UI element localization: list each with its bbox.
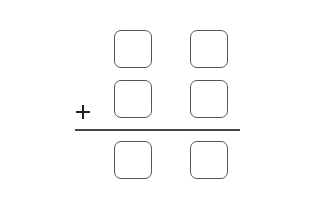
addend-1-ones-box[interactable] (190, 30, 228, 68)
sum-divider-line (75, 129, 240, 131)
addend-1-tens-box[interactable] (114, 30, 152, 68)
sum-ones-box[interactable] (190, 141, 228, 179)
addend-2-tens-box[interactable] (114, 80, 152, 118)
plus-sign-icon (76, 105, 90, 119)
sum-tens-box[interactable] (114, 141, 152, 179)
addend-2-ones-box[interactable] (190, 80, 228, 118)
